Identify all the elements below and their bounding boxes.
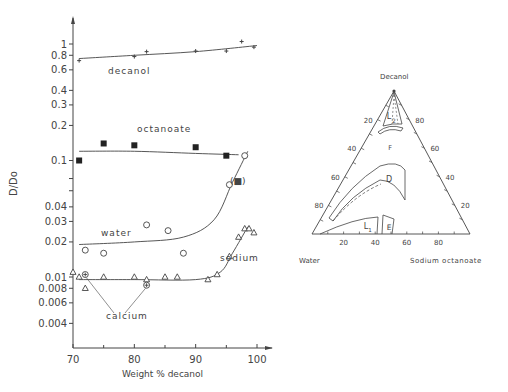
ternary-left-tick	[361, 148, 364, 150]
ternary-phase-diagram: 204060808060402020406080L2FDL1E	[312, 89, 470, 247]
y-tick-label: 0.3	[51, 99, 67, 110]
calcium-leader-line	[86, 278, 114, 313]
ternary-left-tick	[378, 120, 381, 122]
ternary-left-tick-label: 80	[314, 202, 323, 210]
region-label-D: D	[386, 175, 392, 184]
marker-decanol	[145, 50, 149, 54]
fit-curves	[79, 46, 257, 281]
y-tick-label: 0.8	[51, 50, 67, 61]
ternary-right-tick-label: 20	[461, 202, 470, 210]
y-axis: 10.80.60.40.30.20.10.040.030.020.010.008…	[38, 16, 75, 348]
y-axis-arrow-icon	[71, 16, 75, 24]
y-tick-label: 0.02	[45, 236, 67, 247]
region-label-L1-sub: 1	[368, 227, 372, 233]
marker-water	[180, 250, 186, 256]
region-F-boundary	[378, 126, 403, 134]
x-tick-label: 80	[128, 354, 141, 365]
ternary-left-tick-label: 60	[331, 174, 340, 182]
ternary-left-tick	[369, 134, 372, 136]
figure: 10.80.60.40.30.20.10.040.030.020.010.008…	[0, 0, 508, 392]
series-label-calcium: calcium	[106, 311, 148, 321]
marker-water	[101, 250, 107, 256]
ternary-vertex-sodium-octanoate: Sodium octanoate	[410, 257, 482, 265]
ternary-right-tick-label: 60	[430, 145, 439, 153]
marker-sodium	[214, 271, 220, 276]
ternary-right-tick-label: 80	[415, 117, 424, 125]
fit-curve-octanoate	[79, 151, 238, 155]
x-tick-label: 70	[67, 354, 80, 365]
marker-sodium	[236, 234, 242, 239]
y-axis-label: D/Do	[8, 171, 19, 196]
marker-sodium	[144, 276, 150, 281]
series-label-sodium: sodium	[220, 253, 259, 263]
y-tick-label: 0.2	[51, 120, 67, 131]
series-label-decanol: decanol	[108, 66, 150, 76]
y-tick-label: 0.4	[51, 85, 67, 96]
marker-octanoate	[101, 140, 107, 146]
y-tick-label: 0.1	[51, 155, 67, 166]
diffusion-chart: 10.80.60.40.30.20.10.040.030.020.010.008…	[38, 16, 273, 365]
marker-octanoate	[193, 144, 199, 150]
x-axis-arrow-icon	[265, 346, 273, 350]
marker-decanol	[224, 49, 228, 53]
marker-sodium	[70, 269, 76, 274]
calcium-leader-line	[125, 288, 146, 313]
marker-octanoate	[76, 158, 82, 164]
marker-sodium	[76, 274, 82, 279]
y-tick-label: 0.006	[38, 297, 67, 308]
y-tick-label: 0.6	[51, 64, 67, 75]
marker-octanoate	[131, 142, 137, 148]
marker-water	[242, 153, 248, 159]
marker-sodium	[101, 274, 107, 279]
series-label-water: water	[101, 228, 132, 238]
marker-decanol	[240, 40, 244, 44]
x-tick-label: 100	[247, 354, 266, 365]
y-tick-label: 0.03	[45, 216, 67, 227]
region-label-L2: L	[387, 112, 392, 121]
marker-water	[144, 222, 150, 228]
marker-sodium	[131, 274, 137, 279]
marker-water	[165, 228, 171, 234]
marker-sodium	[82, 285, 88, 290]
ternary-left-tick	[386, 105, 389, 107]
fit-curve-decanol	[79, 46, 257, 59]
ternary-bottom-tick-label: 60	[402, 239, 411, 247]
marker-sodium	[162, 274, 168, 279]
x-tick-label: 90	[189, 354, 202, 365]
marker-octanoate	[223, 153, 229, 159]
data-points	[70, 40, 257, 313]
marker-decanol	[77, 59, 81, 63]
y-tick-label: 0.004	[38, 318, 67, 329]
region-label-E: E	[387, 223, 392, 232]
ternary-right-tick-label: 40	[446, 174, 455, 182]
y-tick-label: 0.008	[38, 283, 67, 294]
ternary-bottom-tick-label: 20	[339, 239, 348, 247]
ternary-left-tick-label: 40	[347, 145, 356, 153]
ternary-left-tick	[337, 191, 340, 193]
ternary-left-tick	[345, 177, 348, 179]
marker-decanol	[194, 49, 198, 53]
region-label-F: F	[388, 144, 392, 152]
x-axis-label: Weight % decanol	[122, 369, 203, 379]
marker-water	[82, 247, 88, 253]
ternary-left-tick-label: 20	[364, 117, 373, 125]
y-tick-label: 0.04	[45, 201, 67, 212]
y-tick-label: 1	[61, 39, 67, 50]
series-label-octanoate: octanoate	[137, 124, 191, 134]
ternary-left-tick	[353, 163, 356, 165]
ternary-vertex-decanol: Decanol	[380, 73, 409, 81]
ternary-left-tick	[328, 205, 331, 207]
ternary-vertex-water: Water	[299, 257, 320, 265]
ternary-left-tick	[320, 220, 323, 222]
ternary-bottom-tick-label: 40	[371, 239, 380, 247]
region-label-L2-sub: 2	[392, 117, 396, 124]
y-tick-label: 0.01	[45, 272, 67, 283]
x-axis: 708090100	[67, 344, 273, 365]
marker-sodium	[174, 274, 180, 279]
ternary-bottom-tick-label: 80	[434, 239, 443, 247]
series-label-octanoate-paren: (■)	[230, 176, 246, 186]
